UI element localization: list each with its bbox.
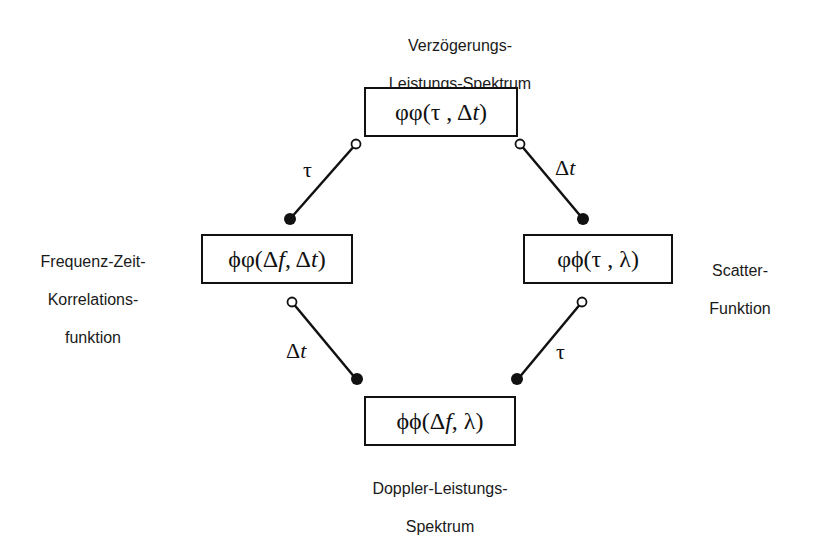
edge-bottom-right: [511, 298, 587, 386]
open-endpoint-icon: [352, 140, 361, 149]
variable-label: t: [300, 338, 306, 363]
caption-line: Scatter-: [690, 261, 790, 280]
edge-label-top-left: τ: [303, 157, 312, 183]
top-node-box: φφ(τ , Δt): [364, 87, 518, 137]
delta-label: Δ: [555, 155, 569, 180]
caption-line: Verzögerungs-: [360, 36, 560, 55]
caption-line: Spektrum: [340, 517, 540, 536]
open-endpoint-icon: [288, 298, 297, 307]
formula-prefix: ϕφ(Δ: [228, 246, 278, 273]
delta-label: Δ: [286, 338, 300, 363]
open-endpoint-icon: [516, 140, 525, 149]
formula-variable: t: [472, 99, 479, 126]
open-endpoint-icon: [578, 298, 587, 307]
edge-top-right: [516, 140, 590, 226]
formula-variable: t: [311, 246, 318, 273]
caption-line: funktion: [18, 328, 168, 347]
formula-variable: f: [278, 246, 285, 273]
formula-prefix: φφ(τ , Δ: [395, 99, 472, 126]
filled-endpoint-icon: [577, 213, 589, 225]
edge-top-left: [284, 140, 361, 226]
tau-label: τ: [303, 157, 312, 182]
right-node-caption: Scatter- Funktion: [690, 242, 790, 337]
formula-mid: , Δ: [285, 246, 311, 273]
filled-endpoint-icon: [284, 213, 296, 225]
edge-label-bottom-right: τ: [556, 339, 565, 365]
variable-label: t: [569, 155, 575, 180]
filled-endpoint-icon: [351, 373, 363, 385]
caption-line: Funktion: [690, 299, 790, 318]
right-node-box: φϕ(τ , λ): [523, 234, 673, 284]
formula-suffix: ): [479, 99, 487, 126]
edge-label-top-right: Δt: [555, 155, 575, 181]
tau-label: τ: [556, 339, 565, 364]
caption-line: Frequenz-Zeit-: [18, 252, 168, 271]
bottom-node-caption: Doppler-Leistungs- Spektrum: [340, 460, 540, 539]
edge-label-bottom-left: Δt: [286, 338, 306, 364]
caption-line: Doppler-Leistungs-: [340, 479, 540, 498]
filled-endpoint-icon: [511, 373, 523, 385]
left-node-caption: Frequenz-Zeit- Korrelations- funktion: [18, 233, 168, 366]
formula-suffix: , λ): [452, 408, 484, 435]
formula: φϕ(τ , λ): [557, 246, 639, 273]
formula-prefix: ϕϕ(Δ: [396, 408, 445, 435]
formula-variable: f: [445, 408, 452, 435]
left-node-box: ϕφ(Δf , Δt): [201, 234, 353, 284]
formula-suffix: ): [318, 246, 326, 273]
bottom-node-box: ϕϕ(Δf , λ): [364, 396, 516, 446]
caption-line: Korrelations-: [18, 290, 168, 309]
